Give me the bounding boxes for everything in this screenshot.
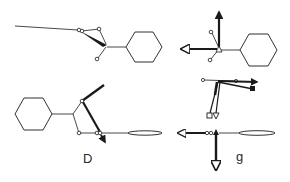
panel-top-left	[15, 26, 162, 62]
thick-bond	[83, 102, 100, 132]
bond	[73, 101, 82, 114]
atom-icon	[77, 131, 81, 135]
panel-top-right	[182, 12, 277, 66]
panel-middle-right-vectors	[201, 78, 257, 119]
bond	[82, 29, 99, 31]
panel-label-g: g	[236, 150, 243, 163]
vector-arrow-right	[218, 81, 257, 82]
panel-label-d: D	[83, 152, 92, 165]
cyclohexane-ring-icon	[240, 34, 277, 66]
molecular-diagram	[0, 0, 290, 182]
atom-icon	[209, 30, 213, 34]
vector-arrow-right-lower	[218, 82, 253, 89]
square-marker-icon	[207, 113, 212, 118]
bond	[73, 114, 79, 133]
panel-bottom-left	[15, 85, 162, 142]
vector-line-down-thick	[215, 82, 217, 95]
elongated-ellipse-icon	[128, 131, 162, 135]
atom-icon	[201, 78, 204, 81]
square-marker-icon	[250, 86, 255, 91]
cyclohexane-ring-icon	[15, 98, 52, 130]
thick-bond	[82, 85, 104, 101]
wedge-bond	[80, 31, 107, 47]
atom-icon	[97, 27, 101, 31]
elongated-ellipse-icon	[239, 131, 275, 136]
triangle-marker-icon	[213, 113, 219, 119]
atom-icon	[80, 29, 84, 33]
atom-icon	[205, 131, 208, 134]
vector-arrow-small	[101, 135, 105, 142]
atom-icon	[98, 131, 102, 135]
atom-icon	[80, 99, 84, 103]
panel-bottom-right	[179, 129, 275, 169]
atom-icon	[208, 58, 212, 62]
atom-icon	[209, 131, 212, 134]
chain-bond	[15, 26, 78, 30]
cyclohexane-ring-icon	[126, 32, 162, 62]
atom-icon	[95, 57, 99, 61]
bond	[98, 47, 106, 58]
